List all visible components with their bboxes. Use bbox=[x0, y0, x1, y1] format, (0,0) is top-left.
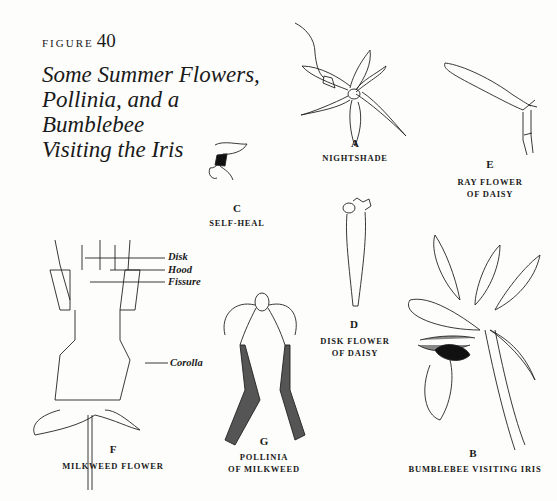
panel-g-caption-line-1: POLLINIA bbox=[214, 451, 314, 463]
panel-e-caption-line-1: RAY FLOWER bbox=[440, 176, 540, 188]
panel-d-caption-line-1: DISK FLOWER bbox=[305, 335, 405, 347]
panel-e-letter: E bbox=[475, 158, 505, 170]
panel-c-caption-line: SELF-HEAL bbox=[187, 217, 287, 229]
panel-a-caption-line: NIGHTSHADE bbox=[300, 152, 410, 164]
panel-f-caption-line: MILKWEED FLOWER bbox=[53, 460, 173, 472]
figure-title: Some Summer Flowers, Pollinia, and a Bum… bbox=[42, 62, 282, 162]
panel-d-letter: D bbox=[339, 318, 369, 330]
pollinia-illustration bbox=[220, 290, 221, 291]
nightshade-illustration bbox=[290, 18, 291, 19]
panel-a-letter: A bbox=[340, 137, 370, 149]
panel-b-caption: BUMBLEBEE VISITING IRIS bbox=[400, 463, 550, 475]
bumblebee-iris-illustration bbox=[400, 230, 401, 231]
title-line-3: Visiting the Iris bbox=[42, 137, 282, 162]
figure-number: 40 bbox=[97, 30, 116, 51]
figure-label: FIGURE40 bbox=[42, 30, 116, 52]
milkweed-flower-illustration bbox=[20, 240, 21, 241]
ray-flower-illustration bbox=[443, 60, 444, 61]
panel-g-letter: G bbox=[249, 435, 279, 447]
panel-c-caption: SELF-HEAL bbox=[187, 217, 287, 229]
panel-f-letter: F bbox=[98, 443, 128, 455]
panel-c-letter: C bbox=[222, 202, 252, 214]
panel-b-caption-line: BUMBLEBEE VISITING IRIS bbox=[400, 463, 550, 475]
callout-disk: Disk bbox=[168, 251, 188, 262]
panel-b-letter: B bbox=[458, 447, 488, 459]
callout-fissure: Fissure bbox=[168, 276, 201, 287]
title-line-1: Some Summer Flowers, bbox=[42, 62, 282, 87]
figure-label-text: FIGURE bbox=[42, 37, 94, 49]
milkweed-callout-lines bbox=[0, 0, 1, 1]
panel-d-caption: DISK FLOWER OF DAISY bbox=[305, 335, 405, 359]
panel-a-caption: NIGHTSHADE bbox=[300, 152, 410, 164]
callout-corolla: Corolla bbox=[170, 357, 203, 368]
panel-d-caption-line-2: OF DAISY bbox=[305, 347, 405, 359]
title-line-2: Pollinia, and a Bumblebee bbox=[42, 87, 282, 137]
callout-hood: Hood bbox=[168, 264, 192, 275]
panel-e-caption-line-2: OF DAISY bbox=[440, 188, 540, 200]
panel-f-caption: MILKWEED FLOWER bbox=[53, 460, 173, 472]
panel-g-caption: POLLINIA OF MILKWEED bbox=[214, 451, 314, 475]
panel-e-caption: RAY FLOWER OF DAISY bbox=[440, 176, 540, 200]
self-heal-illustration bbox=[205, 140, 206, 141]
panel-g-caption-line-2: OF MILKWEED bbox=[214, 463, 314, 475]
disk-flower-illustration bbox=[343, 196, 344, 197]
